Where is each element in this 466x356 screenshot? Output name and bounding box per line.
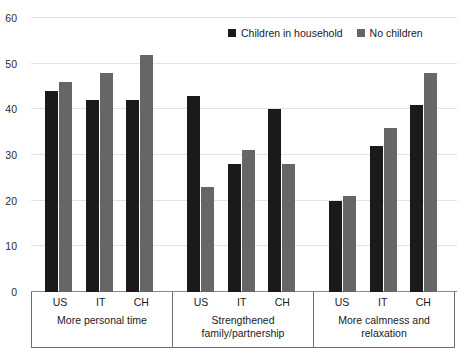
y-tick-label-60: 60	[0, 12, 17, 24]
bar-group-3	[315, 18, 457, 292]
x-tick-label-ch-g2: CH	[275, 296, 290, 308]
bar-CH-no-children	[424, 73, 437, 292]
bar-IT-no-children	[384, 128, 397, 292]
bar-US-children	[329, 201, 342, 292]
x-axis-group-title-1: More personal time	[55, 312, 149, 327]
x-axis-group-1: USITCHMore personal time	[31, 292, 173, 348]
x-tick-label-us-g1: US	[53, 296, 68, 308]
x-tick-label-us-g3: US	[335, 296, 350, 308]
x-tick-label-ch-g3: CH	[416, 296, 431, 308]
bar-US-no-children	[343, 196, 356, 292]
y-tick-label-40: 40	[0, 103, 17, 115]
x-tick-label-us-g2: US	[194, 296, 209, 308]
y-tick-label-10: 10	[0, 240, 17, 252]
x-tick-label-it-g2: IT	[237, 296, 246, 308]
x-tick-label-it-g3: IT	[378, 296, 387, 308]
bar-group-1	[31, 18, 173, 292]
x-axis-group-title-2: Strengthened family/partnership	[200, 312, 287, 339]
x-axis: USITCHMore personal timeUSITCHStrengthen…	[31, 292, 457, 348]
x-axis-group-title-3: More calmness and relaxation	[336, 312, 432, 339]
x-tick-row: USITCH	[314, 292, 454, 312]
x-tick-label-ch-g1: CH	[134, 296, 149, 308]
x-tick-row: USITCH	[32, 292, 172, 312]
x-tick-label-it-g1: IT	[96, 296, 105, 308]
y-tick-label-0: 0	[0, 286, 17, 298]
bar-chart: Children in household No children 010203…	[0, 0, 466, 356]
plot-area: 0102030405060	[31, 18, 457, 292]
bar-US-no-children	[59, 82, 72, 292]
y-tick-label-20: 20	[0, 195, 17, 207]
bar-IT-children	[86, 100, 99, 292]
bar-CH-children	[268, 109, 281, 292]
bar-CH-children	[410, 105, 423, 292]
bar-IT-no-children	[100, 73, 113, 292]
bar-IT-children	[370, 146, 383, 292]
bar-CH-children	[126, 100, 139, 292]
bar-US-no-children	[201, 187, 214, 292]
y-tick-label-50: 50	[0, 58, 17, 70]
bar-US-children	[45, 91, 58, 292]
bar-US-children	[187, 96, 200, 292]
x-axis-group-3: USITCHMore calmness and relaxation	[313, 292, 455, 348]
bar-CH-no-children	[282, 164, 295, 292]
x-tick-row: USITCH	[173, 292, 313, 312]
bar-group-2	[173, 18, 315, 292]
bar-series-container	[31, 18, 457, 292]
y-tick-label-30: 30	[0, 149, 17, 161]
bar-IT-children	[228, 164, 241, 292]
x-axis-group-2: USITCHStrengthened family/partnership	[172, 292, 314, 348]
bar-CH-no-children	[140, 55, 153, 292]
bar-IT-no-children	[242, 150, 255, 292]
